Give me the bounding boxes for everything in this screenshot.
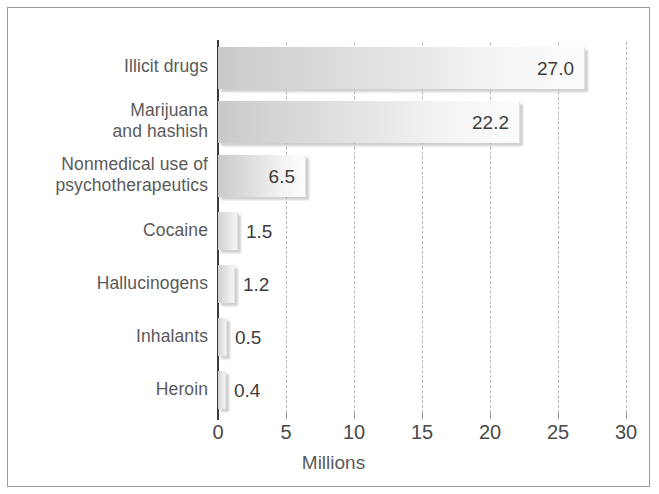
bar-cocaine[interactable]: 1.5 [218,212,238,250]
category-label: Hallucinogens [97,273,208,294]
bar-fill: 0.4 [218,371,226,409]
tick-mark-10 [354,412,355,419]
x-tick-label-0: 0 [212,420,223,444]
bar-fill: 1.2 [218,265,235,303]
bar-row: Illicit drugs 27.0 [0,47,659,89]
x-tick-label-30: 30 [615,420,637,444]
bar-fill: 27.0 [218,47,585,89]
bar-row: Cocaine 1.5 [0,212,659,250]
x-tick-label-15: 15 [411,420,433,444]
category-label: Nonmedical use of psychotherapeutics [55,154,208,196]
chart-figure: Illicit drugs 27.0 Marijuana and hashish… [0,0,659,494]
x-tick-label-25: 25 [547,420,569,444]
bar-row: Hallucinogens 1.2 [0,265,659,303]
bar-row: Marijuana and hashish 22.2 [0,101,659,143]
bar-value-label: 0.5 [235,328,261,347]
bar-row: Nonmedical use of psychotherapeutics 6.5 [0,155,659,197]
bar-inhalants[interactable]: 0.5 [218,318,227,356]
category-label: Marijuana and hashish [113,100,208,142]
bar-row: Inhalants 0.5 [0,318,659,356]
tick-mark-15 [422,412,423,419]
x-tick-label-10: 10 [343,420,365,444]
bar-marijuana-and-hashish[interactable]: 22.2 [218,101,520,143]
x-tick-label-20: 20 [479,420,501,444]
tick-mark-30 [626,412,627,419]
bar-value-label: 0.4 [234,381,260,400]
plot-area: Illicit drugs 27.0 Marijuana and hashish… [0,0,659,494]
bar-value-label: 1.5 [246,222,272,241]
x-tick-label-5: 5 [280,420,291,444]
bar-fill: 0.5 [218,318,227,356]
bar-value-label: 27.0 [537,59,574,78]
bar-fill: 22.2 [218,101,520,143]
bar-illicit-drugs[interactable]: 27.0 [218,47,585,89]
bar-value-label: 1.2 [243,275,269,294]
x-axis-title: Millions [0,452,659,474]
tick-mark-20 [490,412,491,419]
bar-fill: 1.5 [218,212,238,250]
bar-nonmedical-use-of-psychotherapeutics[interactable]: 6.5 [218,155,306,197]
category-label: Illicit drugs [124,56,208,77]
bar-fill: 6.5 [218,155,306,197]
category-label: Inhalants [136,326,208,347]
bar-hallucinogens[interactable]: 1.2 [218,265,235,303]
bar-heroin[interactable]: 0.4 [218,371,226,409]
x-axis-title-text: Millions [302,452,365,473]
tick-mark-25 [558,412,559,419]
bar-row: Heroin 0.4 [0,371,659,409]
bar-value-label: 6.5 [269,167,295,186]
category-label: Cocaine [143,220,208,241]
bar-value-label: 22.2 [472,113,509,132]
category-label: Heroin [156,379,208,400]
tick-mark-5 [286,412,287,419]
